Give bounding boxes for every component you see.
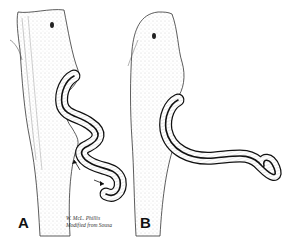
signature-line-1: W. McL. Phillis [66, 215, 112, 222]
illustration-svg [0, 0, 284, 239]
panel-label-b: B [140, 214, 151, 231]
signature-line-2: Modified from Sousa [66, 222, 112, 229]
foramen-a [50, 22, 54, 28]
artist-signature: W. McL. Phillis Modified from Sousa [66, 215, 112, 229]
panel-a [10, 10, 120, 236]
foramen-b [152, 33, 156, 39]
tissue-wall-a [17, 10, 78, 236]
panel-b [128, 12, 275, 236]
tissue-wall-b [131, 12, 185, 236]
medical-illustration: A B W. McL. Phillis Modified from Sousa [0, 0, 284, 239]
panel-label-a: A [18, 214, 29, 231]
